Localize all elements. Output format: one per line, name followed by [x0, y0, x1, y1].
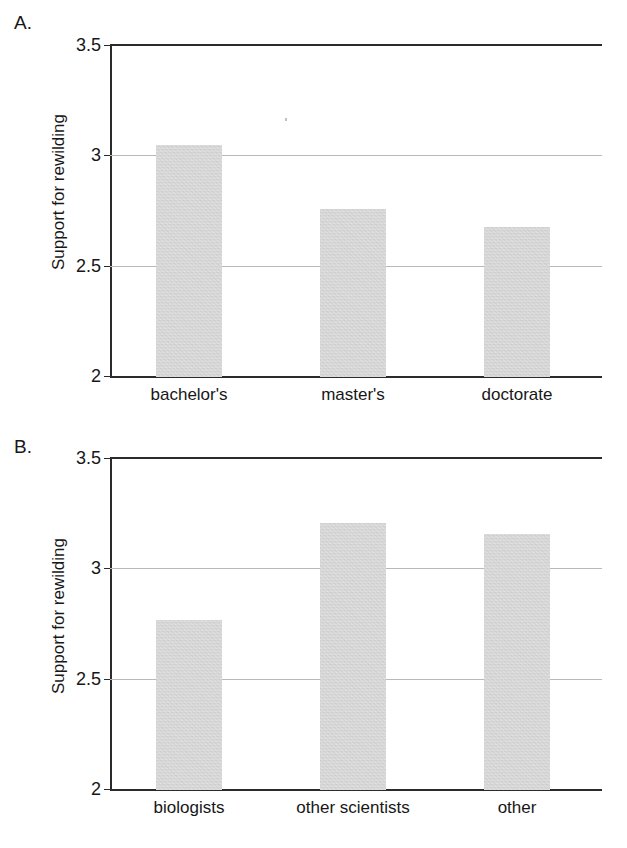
x-tick-label: doctorate: [482, 385, 553, 405]
panel-label-b: B.: [14, 436, 32, 458]
bar-other-scientists[interactable]: [320, 523, 386, 790]
bar-doctorate[interactable]: [484, 227, 550, 377]
x-tick-label: biologists: [154, 798, 225, 818]
y-tick-label: 3: [91, 145, 101, 166]
bar-group-a: [110, 45, 602, 377]
bar-group-b: [110, 458, 602, 790]
y-tick-label: 2: [91, 366, 101, 387]
bar-masters[interactable]: [320, 209, 386, 377]
plot-area-a: 3.5 3 2.5 2: [110, 45, 602, 377]
y-tick-label: 3: [91, 558, 101, 579]
plot-area-b: 3.5 3 2.5 2: [110, 458, 602, 790]
x-tick-label: bachelor's: [151, 385, 228, 405]
y-tick-label: 2: [91, 779, 101, 800]
x-axis-labels-a: bachelor's master's doctorate: [110, 385, 602, 415]
figure-container: A. Support for rewilding 3.5 3 2.5 2: [0, 0, 627, 848]
x-tick-label: master's: [321, 385, 385, 405]
panel-label-a: A.: [14, 12, 32, 34]
bar-other[interactable]: [484, 534, 550, 790]
x-tick-label: other scientists: [296, 798, 409, 818]
chart-panel-a: A. Support for rewilding 3.5 3 2.5 2: [0, 0, 627, 424]
y-tick-label: 3.5: [76, 448, 101, 469]
bar-bachelors[interactable]: [156, 145, 222, 377]
y-tick-label: 3.5: [76, 35, 101, 56]
bar-biologists[interactable]: [156, 620, 222, 790]
y-axis-title-a: Support for rewilding: [49, 67, 69, 317]
y-tick-label: 2.5: [76, 669, 101, 690]
x-tick-label: other: [498, 798, 537, 818]
chart-panel-b: B. Support for rewilding 3.5 3 2.5 2 bio…: [0, 424, 627, 848]
y-tick-label: 2.5: [76, 256, 101, 277]
y-axis-title-b: Support for rewilding: [49, 491, 69, 741]
x-axis-labels-b: biologists other scientists other: [110, 798, 602, 828]
